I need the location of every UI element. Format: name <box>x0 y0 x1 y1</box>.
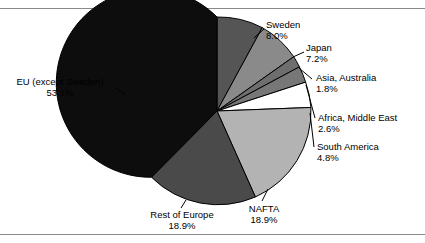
leader-line-rest-of-europe <box>181 200 186 208</box>
pie-label-asia-australia-name: Asia, Australia <box>316 72 376 83</box>
pie-label-sweden-name: Sweden <box>266 19 300 30</box>
pie-label-nafta-name: NAFTA <box>236 203 292 214</box>
pie-label-africa-middle-east-name: Africa, Middle East <box>318 112 397 123</box>
pie-label-nafta: NAFTA 18.9% <box>236 203 292 225</box>
leader-line-south-america <box>310 113 314 147</box>
pie-label-asia-australia: Asia, Australia 1.8% <box>316 72 376 94</box>
pie-label-japan-value: 7.2% <box>306 53 332 64</box>
pie-label-eu-except-sweden-value: 53.1% <box>6 87 114 98</box>
pie-label-rest-of-europe-value: 18.9% <box>138 220 226 231</box>
pie-label-eu-except-sweden-name: EU (except Sweden) <box>6 76 114 87</box>
pie-label-south-america-value: 4.8% <box>317 152 379 163</box>
pie-label-japan: Japan 7.2% <box>306 42 332 64</box>
pie-label-africa-middle-east-value: 2.6% <box>318 123 397 134</box>
pie-chart-figure: Sweden 8.0% Japan 7.2% Asia, Australia 1… <box>0 0 425 243</box>
pie-label-south-america-name: South America <box>317 141 379 152</box>
leader-line-japan <box>293 52 304 57</box>
pie-label-nafta-value: 18.9% <box>236 214 292 225</box>
pie-label-japan-name: Japan <box>306 42 332 53</box>
pie-label-south-america: South America 4.8% <box>317 141 379 163</box>
pie-label-sweden-value: 8.0% <box>266 30 300 41</box>
pie-label-asia-australia-value: 1.8% <box>316 83 376 94</box>
pie-label-eu-except-sweden: EU (except Sweden) 53.1% <box>6 76 114 98</box>
pie-label-rest-of-europe-name: Rest of Europe <box>138 209 226 220</box>
pie-label-sweden: Sweden 8.0% <box>266 19 300 41</box>
pie-label-rest-of-europe: Rest of Europe 18.9% <box>138 209 226 231</box>
pie-label-africa-middle-east: Africa, Middle East 2.6% <box>318 112 397 134</box>
